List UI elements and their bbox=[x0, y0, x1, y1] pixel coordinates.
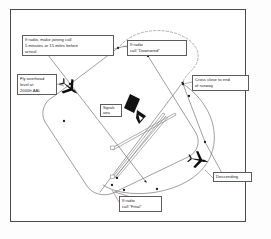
windsock-icon bbox=[136, 110, 146, 124]
aircraft-icon-descending bbox=[186, 150, 210, 171]
runway-strips bbox=[111, 113, 177, 178]
callout-final-call: If radio call "Final" bbox=[119, 196, 162, 212]
descent-curve-path bbox=[103, 84, 214, 194]
figure-container: If radio, make joining call 5 minutes or… bbox=[0, 0, 271, 239]
callout-leader-lines bbox=[57, 46, 213, 202]
runway-threshold-marker-2 bbox=[111, 175, 115, 178]
callout-cross-end-of-runway: Cross close to end of runway bbox=[192, 75, 249, 91]
inbound-track-path bbox=[48, 55, 146, 182]
signal-square-icon bbox=[124, 94, 140, 113]
callout-downwind-call: If radio call "Downwind" bbox=[127, 40, 187, 56]
callout-descending: Descending bbox=[213, 172, 252, 182]
callout-signals-area: Signals area bbox=[100, 104, 122, 117]
runway-cross-b bbox=[115, 116, 168, 178]
deadside-dashed-arc bbox=[120, 31, 198, 84]
runway-threshold-marker bbox=[111, 146, 115, 149]
circuit-pattern-path bbox=[43, 46, 198, 195]
waypoint-dots bbox=[63, 43, 206, 191]
callout-fly-overhead: Fly overhead level at 2000ft AAL bbox=[17, 74, 57, 95]
aircraft-icon-inbound bbox=[56, 74, 83, 100]
callout-joining-call: If radio, make joining call 5 minutes or… bbox=[22, 35, 114, 56]
